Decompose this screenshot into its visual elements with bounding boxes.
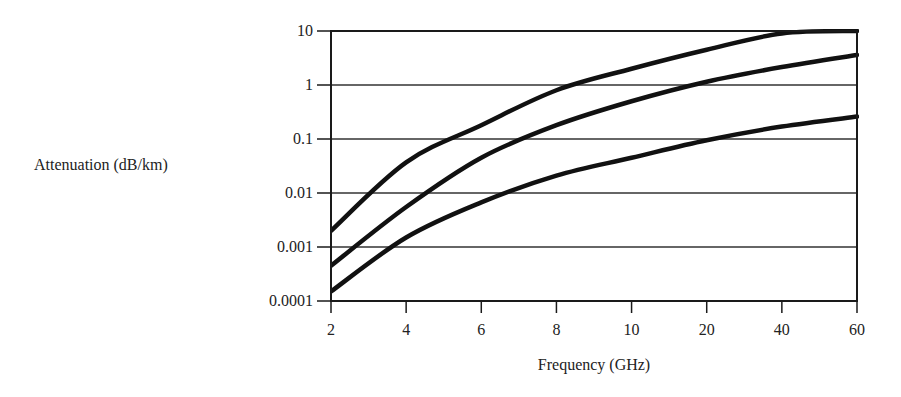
x-tick-label: 40 bbox=[774, 321, 790, 338]
attenuation-chart: 1010.10.010.0010.0001 246810204060 Atten… bbox=[0, 0, 901, 397]
x-tick-label: 10 bbox=[624, 321, 640, 338]
y-tick-label: 10 bbox=[297, 22, 313, 39]
x-tick-label: 4 bbox=[402, 321, 410, 338]
y-axis-title: Attenuation (dB/km) bbox=[34, 156, 168, 174]
x-tick-label: 60 bbox=[849, 321, 865, 338]
curve-upper bbox=[331, 31, 857, 231]
x-axis-title: Frequency (GHz) bbox=[538, 356, 650, 374]
y-tick-label: 0.0001 bbox=[269, 292, 313, 309]
y-tick-label: 0.1 bbox=[293, 130, 313, 147]
x-axis-ticks: 246810204060 bbox=[327, 301, 865, 338]
x-tick-label: 8 bbox=[552, 321, 560, 338]
x-tick-label: 2 bbox=[327, 321, 335, 338]
x-tick-label: 20 bbox=[699, 321, 715, 338]
y-tick-label: 1 bbox=[305, 76, 313, 93]
x-tick-label: 6 bbox=[477, 321, 485, 338]
y-tick-label: 0.001 bbox=[277, 238, 313, 255]
attenuation-curves bbox=[331, 31, 857, 291]
y-axis-ticks: 1010.10.010.0010.0001 bbox=[269, 22, 331, 309]
y-tick-label: 0.01 bbox=[285, 184, 313, 201]
